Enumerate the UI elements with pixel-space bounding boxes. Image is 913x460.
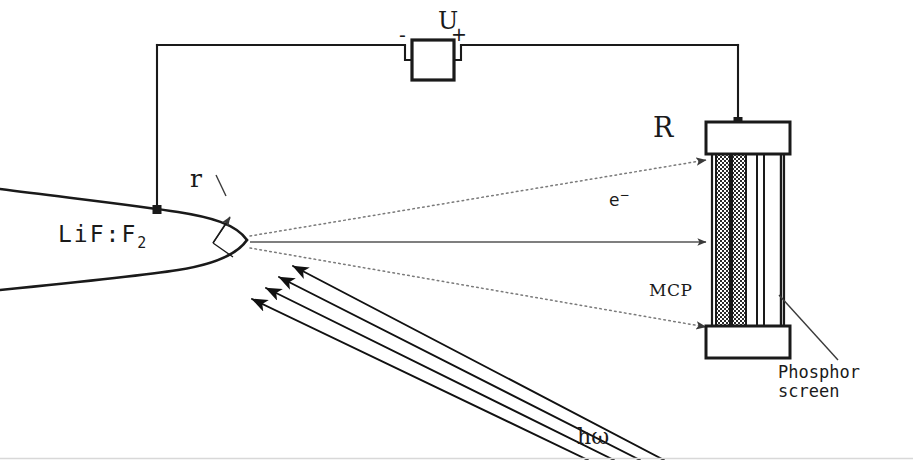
voltage-source-box (412, 40, 454, 80)
phosphor-screen-label-line1: Phosphor (778, 362, 860, 382)
crystal-label: LiF:F2 (58, 222, 146, 251)
detector-radius-label: R (653, 113, 673, 143)
phosphor-screen-label-line2: screen (778, 381, 839, 401)
trajectory-upper (250, 160, 706, 236)
phosphor-screen-label: Phosphorscreen (778, 363, 860, 401)
mcp-plate-2 (732, 152, 746, 326)
figure-canvas: LiF:F2 r U - + R e− MCP Phosphorscreen h… (0, 0, 913, 460)
electron-trajectories (250, 160, 706, 327)
crystal-label-text: LiF:F (58, 221, 137, 247)
electron-label: e− (609, 189, 630, 210)
tip-radius-label: r (190, 165, 202, 193)
detector-bottom-cap (706, 326, 790, 358)
beam-ray-4 (252, 299, 588, 460)
mcp-plate-1 (716, 152, 730, 326)
crystal-label-subscript: 2 (137, 234, 146, 252)
polarity-positive-label: + (451, 24, 467, 45)
photon-label: hω (577, 425, 609, 450)
electron-label-text: e (609, 190, 619, 210)
mcp-label: MCP (649, 281, 692, 300)
tip-radius-leader (216, 175, 226, 196)
electron-label-superscript: − (619, 188, 629, 202)
detector-top-cap (706, 122, 790, 154)
beam-ray-3 (266, 288, 614, 460)
wire-top-left (157, 45, 412, 60)
polarity-negative-label: - (399, 25, 406, 46)
mcp-detector-assembly (706, 122, 790, 358)
trajectory-lower (250, 248, 706, 327)
